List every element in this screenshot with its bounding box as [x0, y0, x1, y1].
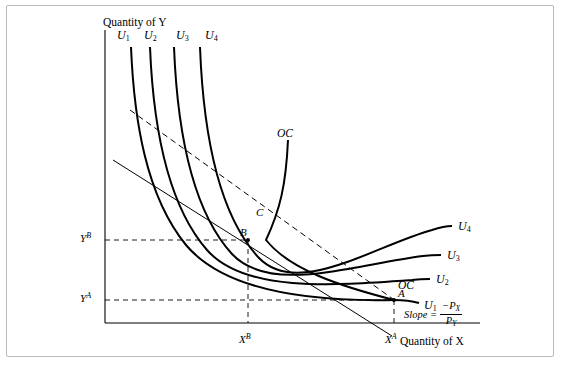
axis-label-xa-base: X [385, 333, 392, 345]
curve-label-u2-top-sub: 2 [153, 34, 157, 43]
offer-curve-label-top: OC [277, 128, 293, 140]
curve-label-u3-top-sub: 3 [185, 34, 189, 43]
curve-label-u4-top-sub: 4 [214, 34, 218, 43]
curve-label-u3-right: U3 [447, 249, 460, 263]
offer-curve [266, 140, 394, 300]
curve-label-u4-right-base: U [458, 219, 467, 233]
axis-label-yb-sup: B [86, 231, 91, 240]
curve-label-u2-right-base: U [436, 272, 445, 286]
point-marker-b [246, 238, 250, 242]
x-axis-title: Quantity of X [400, 336, 464, 348]
curve-label-u2-top: U2 [144, 29, 157, 43]
slope-denominator-sub: Y [452, 319, 456, 328]
curve-label-u2-top-base: U [144, 28, 153, 42]
point-label-c: C [256, 207, 263, 218]
curve-label-u1-top-base: U [117, 28, 126, 42]
axis-label-yb: YB [80, 232, 91, 244]
y-axis-title: Quantity of Y [103, 17, 166, 29]
slope-denominator: PY [444, 315, 459, 328]
curve-label-u1-top: U1 [117, 29, 130, 43]
curve-label-u3-right-sub: 3 [456, 254, 460, 263]
curve-label-u4-right-sub: 4 [467, 225, 471, 234]
curve-label-u3-right-base: U [447, 248, 456, 262]
slope-fraction: −PX PY [440, 301, 462, 327]
curve-label-u4-top: U4 [205, 29, 218, 43]
axis-label-ya: YA [80, 292, 91, 304]
budget-line-solid [113, 160, 392, 336]
axis-label-xa: XA [385, 333, 397, 345]
budget-line-dashed [130, 110, 397, 302]
curve-label-u4-top-base: U [205, 28, 214, 42]
slope-numerator: −PX [440, 301, 462, 314]
axis-label-ya-sup: A [86, 291, 91, 300]
point-marker-a [392, 298, 396, 302]
slope-annotation-text: Slope = [404, 309, 437, 320]
axis-label-xb-base: X [239, 333, 246, 345]
axis-label-xb-sup: B [246, 332, 251, 341]
slope-numerator-sub: X [456, 304, 461, 313]
axis-label-xa-sup: A [392, 332, 397, 341]
figure-container: Quantity of Y Quantity of X U1 U2 U3 U4 … [0, 0, 564, 365]
indifference-curve-u2 [150, 47, 430, 284]
curve-label-u2-right: U2 [436, 273, 449, 287]
curve-label-u1-top-sub: 1 [126, 34, 130, 43]
curve-label-u3-top: U3 [176, 29, 189, 43]
diagram-canvas [0, 0, 564, 365]
curve-label-u2-right-sub: 2 [445, 278, 449, 287]
slope-annotation: Slope = −PX PY [404, 301, 462, 327]
axis-label-xb: XB [239, 333, 251, 345]
point-label-a: A [398, 288, 405, 299]
point-label-b: B [240, 227, 247, 238]
curve-label-u3-top-base: U [176, 28, 185, 42]
curve-label-u4-right: U4 [458, 220, 471, 234]
